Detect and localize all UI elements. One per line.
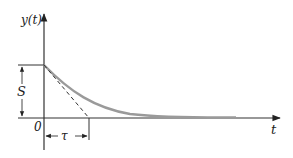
origin-label: 0 <box>34 120 42 134</box>
decay-diagram: S τ y(t) t 0 <box>0 0 293 158</box>
step-label: S <box>17 84 26 99</box>
x-axis-label: t <box>271 122 277 137</box>
diagram-canvas: S τ y(t) t 0 <box>0 0 293 158</box>
decay-curve <box>44 65 236 118</box>
tangent-line <box>44 65 89 118</box>
time-constant-label: τ <box>61 129 68 143</box>
y-axis-label: y(t) <box>20 13 42 27</box>
